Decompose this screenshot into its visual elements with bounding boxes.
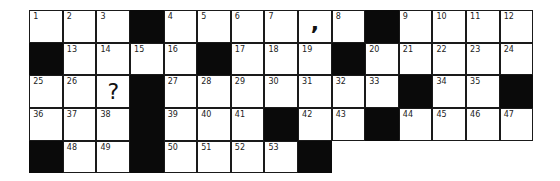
grid-cell[interactable]: 24 (500, 43, 534, 76)
grid-cell[interactable]: 22 (432, 43, 466, 76)
grid-cell[interactable]: 9 (399, 10, 433, 43)
grid-cell[interactable]: 35 (466, 75, 500, 108)
clue-number: 42 (302, 110, 312, 119)
grid-cell[interactable]: 21 (399, 43, 433, 76)
clue-number: 51 (201, 143, 211, 152)
grid-cell[interactable]: 25 (29, 75, 63, 108)
grid-cell[interactable]: 4 (164, 10, 198, 43)
clue-number: 22 (436, 45, 446, 54)
grid-cell[interactable]: 11 (466, 10, 500, 43)
clue-number: 20 (369, 45, 379, 54)
clue-number: 7 (268, 12, 273, 21)
grid-cell[interactable]: 15 (130, 43, 164, 76)
grid-cell[interactable]: 1 (29, 10, 63, 43)
black-cell (399, 75, 433, 108)
clue-number: 41 (235, 110, 245, 119)
grid-cell[interactable]: 42 (298, 108, 332, 141)
clue-number: 48 (67, 143, 77, 152)
grid-cell[interactable]: 43 (332, 108, 366, 141)
grid-cell[interactable]: 47 (500, 108, 534, 141)
grid-cell[interactable]: 29 (231, 75, 265, 108)
clue-number: 53 (268, 143, 278, 152)
clue-number: 10 (436, 12, 446, 21)
grid-cell[interactable]: 31 (298, 75, 332, 108)
grid-cell[interactable]: 32 (332, 75, 366, 108)
grid-cell[interactable]: 8 (332, 10, 366, 43)
grid-cell[interactable]: 50 (164, 141, 198, 174)
clue-number: 33 (369, 77, 379, 86)
clue-number: 45 (436, 110, 446, 119)
grid-cell[interactable]: 12 (500, 10, 534, 43)
grid-cell[interactable]: 14 (96, 43, 130, 76)
clue-number: 35 (470, 77, 480, 86)
grid-cell[interactable]: 36 (29, 108, 63, 141)
clue-number: 34 (436, 77, 446, 86)
clue-number: 11 (470, 12, 480, 21)
clue-number: 4 (168, 12, 173, 21)
clue-number: 12 (504, 12, 514, 21)
grid-cell[interactable]: 48 (63, 141, 97, 174)
grid-cell[interactable]: 51 (197, 141, 231, 174)
grid-cell[interactable]: 53 (264, 141, 298, 174)
grid-cell[interactable]: 10 (432, 10, 466, 43)
grid-cell[interactable]: 26 (63, 75, 97, 108)
grid-cell[interactable]: 16 (164, 43, 198, 76)
black-cell (130, 10, 164, 43)
grid-cell[interactable]: 5 (197, 10, 231, 43)
grid-cell[interactable]: 17 (231, 43, 265, 76)
black-cell (197, 43, 231, 76)
clue-number: 15 (134, 45, 144, 54)
clue-number: 3 (100, 12, 105, 21)
grid-cell[interactable]: 44 (399, 108, 433, 141)
clue-number: 1 (33, 12, 38, 21)
clue-number: 43 (336, 110, 346, 119)
black-cell (332, 43, 366, 76)
clue-number: 49 (100, 143, 110, 152)
grid-cell[interactable]: 40 (197, 108, 231, 141)
grid-cell[interactable]: 3 (96, 10, 130, 43)
clue-number: 39 (168, 110, 178, 119)
grid-cell[interactable]: 13 (63, 43, 97, 76)
grid-cell[interactable]: , (298, 10, 332, 43)
black-cell (130, 108, 164, 141)
black-cell (365, 10, 399, 43)
grid-cell[interactable]: 18 (264, 43, 298, 76)
grid-cell[interactable]: 6 (231, 10, 265, 43)
clue-number: 31 (302, 77, 312, 86)
clue-number: 17 (235, 45, 245, 54)
clue-number: 40 (201, 110, 211, 119)
grid-cell[interactable]: 33 (365, 75, 399, 108)
grid-cell[interactable]: 41 (231, 108, 265, 141)
grid-cell[interactable]: 28 (197, 75, 231, 108)
grid-cell[interactable]: 19 (298, 43, 332, 76)
grid-cell[interactable]: 45 (432, 108, 466, 141)
clue-number: 23 (470, 45, 480, 54)
grid-cell[interactable]: 38 (96, 108, 130, 141)
clue-number: 5 (201, 12, 206, 21)
grid-cell[interactable]: 30 (264, 75, 298, 108)
clue-number: 36 (33, 110, 43, 119)
grid-cell[interactable]: 52 (231, 141, 265, 174)
clue-number: 47 (504, 110, 514, 119)
grid-cell[interactable]: 23 (466, 43, 500, 76)
black-cell (130, 141, 164, 174)
grid-cell[interactable]: 20 (365, 43, 399, 76)
clue-number: 50 (168, 143, 178, 152)
grid-cell[interactable]: 46 (466, 108, 500, 141)
clue-number: 52 (235, 143, 245, 152)
grid-cell[interactable]: 37 (63, 108, 97, 141)
clue-number: 21 (403, 45, 413, 54)
clue-number: 2 (67, 12, 72, 21)
grid-cell[interactable]: ? (96, 75, 130, 108)
clue-number: 28 (201, 77, 211, 86)
grid-cell[interactable]: 49 (96, 141, 130, 174)
grid-cell[interactable]: 27 (164, 75, 198, 108)
clue-number: 46 (470, 110, 480, 119)
grid-cell[interactable]: 39 (164, 108, 198, 141)
clue-number: 26 (67, 77, 77, 86)
clue-number: 9 (403, 12, 408, 21)
grid-cell[interactable]: 2 (63, 10, 97, 43)
grid-cell[interactable]: 7 (264, 10, 298, 43)
grid-cell[interactable]: 34 (432, 75, 466, 108)
black-cell (500, 75, 534, 108)
